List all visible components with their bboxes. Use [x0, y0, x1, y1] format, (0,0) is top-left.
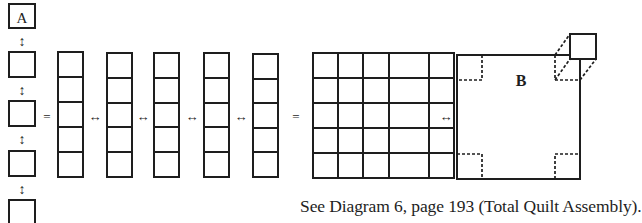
block-b-label: B: [516, 72, 527, 89]
stack-block: [9, 200, 35, 223]
equals-sign: =: [43, 109, 50, 124]
vertical-arrow-icon: ↕: [19, 34, 26, 49]
assembled-grid: [313, 53, 454, 178]
block-a-label: A: [17, 10, 28, 26]
horizontal-arrow-icon: ↔: [186, 109, 199, 124]
column-5: [253, 54, 278, 177]
horizontal-arrow-icon: ↔: [89, 109, 102, 124]
stack-block: [9, 52, 35, 77]
stack-block: [9, 101, 35, 126]
horizontal-arrow-icon: ↔: [235, 109, 248, 124]
corner-square: [570, 34, 596, 59]
diagram-caption: See Diagram 6, page 193 (Total Quilt Ass…: [300, 196, 642, 217]
vertical-arrow-icon: ↕: [19, 132, 26, 147]
stack-block: [9, 151, 35, 176]
horizontal-arrow-icon: ↔: [440, 109, 453, 124]
column-1: [58, 52, 83, 177]
column-4: [204, 53, 229, 177]
column-3: [154, 53, 179, 177]
equals-sign: =: [292, 109, 299, 124]
vertical-arrow-icon: ↕: [19, 182, 26, 197]
horizontal-arrow-icon: ↔: [137, 109, 150, 124]
column-2: [107, 53, 132, 177]
vertical-arrow-icon: ↕: [19, 83, 26, 98]
border-square-b: [457, 34, 596, 179]
